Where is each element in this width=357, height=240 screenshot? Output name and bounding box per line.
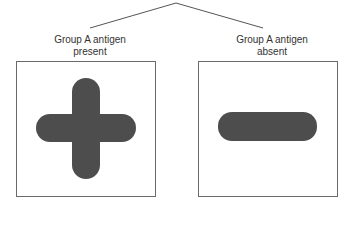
- label-line1: Group A antigen: [202, 34, 342, 46]
- label-line1: Group A antigen: [20, 34, 160, 46]
- label-antigen-present: Group A antigen present: [20, 34, 160, 58]
- label-line2: present: [20, 46, 160, 58]
- box-present: [16, 61, 156, 197]
- plus-horizontal-bar: [36, 114, 136, 142]
- label-antigen-absent: Group A antigen absent: [202, 34, 342, 58]
- minus-icon: [218, 112, 317, 141]
- label-line2: absent: [202, 46, 342, 58]
- box-absent: [198, 61, 338, 197]
